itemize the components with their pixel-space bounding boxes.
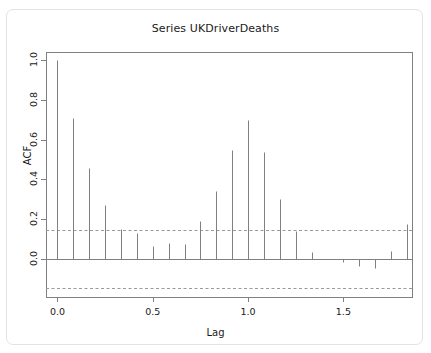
y-tick-label: 0.6 <box>28 126 39 152</box>
y-tick-label: 0.0 <box>28 246 39 272</box>
x-tick-label: 1.5 <box>328 306 358 317</box>
y-tick-label: 0.8 <box>28 86 39 112</box>
x-tick-label: 0.0 <box>42 306 72 317</box>
x-axis-label: Lag <box>0 327 431 338</box>
page-title: Series UKDriverDeaths <box>0 22 431 35</box>
y-tick-label: 0.4 <box>28 166 39 192</box>
acf-spikes <box>58 61 408 269</box>
plot-frame <box>47 53 413 298</box>
y-tick-label: 1.0 <box>28 46 39 72</box>
x-tick-label: 1.0 <box>233 306 263 317</box>
y-tick-label: 0.2 <box>28 206 39 232</box>
plot-canvas <box>0 0 431 353</box>
x-tick-label: 0.5 <box>138 306 168 317</box>
acf-plot: Series UKDriverDeaths ACF Lag 0.00.20.40… <box>0 0 431 353</box>
